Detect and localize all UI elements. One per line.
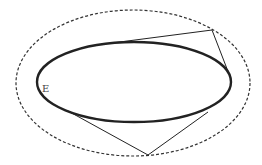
outer-ellipse	[16, 10, 250, 156]
upper-tangent-line-right	[212, 30, 229, 74]
inner-ellipse	[37, 42, 231, 122]
upper-tangent-lines	[112, 30, 229, 74]
upper-tangent-line-left	[112, 30, 212, 43]
diagram-canvas: E	[0, 0, 262, 165]
lower-tangent-line-left	[68, 111, 148, 155]
ellipse-label-e: E	[42, 83, 49, 94]
